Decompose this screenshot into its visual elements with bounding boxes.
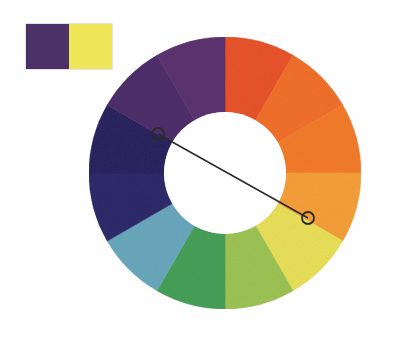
color-wheel	[86, 26, 364, 322]
color-wheel-svg	[86, 26, 364, 322]
center-hole	[164, 112, 286, 234]
wheel-hub	[164, 112, 286, 234]
color-wheel-figure	[0, 0, 406, 340]
swatch-violet	[26, 24, 69, 69]
